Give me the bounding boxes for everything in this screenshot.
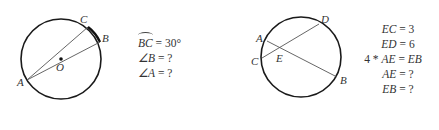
label-C-left: C [80, 13, 88, 25]
equation-angle-A: ∠A = ? [138, 66, 181, 81]
left-equations: BC = 30° ∠B = ? ∠A = ? [138, 36, 181, 81]
arc-BC-highlight [88, 27, 100, 42]
equation-relation: 4 * AE = EB [352, 52, 434, 67]
arc-BC-symbol: BC [138, 36, 153, 51]
right-equations: EC = 3 ED = 6 4 * AE = EB AE = ? EB = ? [362, 22, 434, 97]
equation-EC: EC = 3 [362, 22, 434, 37]
equation-ED: ED = 6 [362, 37, 434, 52]
right-circle [261, 17, 341, 97]
right-figure: A B C D E [251, 13, 347, 97]
label-A-right: A [255, 32, 263, 44]
label-A-left: A [16, 76, 24, 88]
label-O-left: O [56, 61, 64, 73]
label-B-right: B [340, 74, 347, 86]
label-B-left: B [102, 32, 109, 44]
left-figure: A B C O [16, 13, 109, 99]
equation-arc-BC: BC = 30° [138, 36, 181, 51]
equation-EB: EB = ? [362, 82, 434, 97]
arc-overline-icon [138, 32, 153, 38]
label-E-right: E [275, 52, 283, 64]
equation-angle-B: ∠B = ? [138, 51, 181, 66]
equation-AE: AE = ? [362, 67, 434, 82]
label-D-right: D [320, 13, 329, 25]
label-C-right: C [251, 55, 259, 67]
